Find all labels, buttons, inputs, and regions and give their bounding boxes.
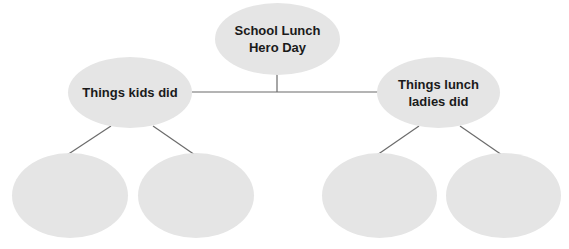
root-node-label: School Lunch Hero Day [235,22,321,56]
branch-node-label: Things kids did [82,84,177,101]
leaf-node-kids-2 [138,153,254,238]
root-node-school-lunch-hero-day: School Lunch Hero Day [215,3,340,75]
leaf-node-ladies-2 [446,153,561,238]
connector-ladies-child-2 [460,126,502,155]
branch-node-things-lunch-ladies-did: Things lunch ladies did [377,57,500,128]
branch-node-things-kids-did: Things kids did [68,57,192,128]
leaf-node-ladies-1 [322,153,437,238]
branch-node-label: Things lunch ladies did [398,76,479,110]
connector-ladies-child-1 [377,126,419,155]
connector-kids-child-1 [67,126,111,155]
leaf-node-kids-1 [12,153,128,238]
graphic-organizer-diagram: School Lunch Hero Day Things kids did Th… [0,0,569,249]
connector-kids-child-2 [153,126,195,155]
